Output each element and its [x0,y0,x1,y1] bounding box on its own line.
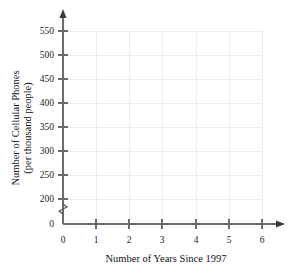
y-tick-label-350: 350 [40,122,55,132]
y-tick-label-450: 450 [40,74,55,84]
x-tick-label-1: 1 [94,235,99,245]
x-tick-label-6: 6 [260,235,265,245]
y-tick-label-250: 250 [40,170,55,180]
cartesian-plot: 550 500 450 400 350 300 250 200 0 0 1 2 … [0,0,293,269]
y-tick-label-300: 300 [40,146,55,156]
y-tick-label-0: 0 [49,219,54,229]
y-axis-title-line2: (per thousand people) [22,82,34,174]
x-axis-tick-labels: 0 1 2 3 4 5 6 [61,235,265,245]
x-tick-label-4: 4 [194,235,199,245]
x-tick-label-5: 5 [227,235,232,245]
y-axis [60,9,67,224]
y-tick-label-400: 400 [40,98,55,108]
chart-container: 550 500 450 400 350 300 250 200 0 0 1 2 … [0,0,293,269]
x-tick-label-0: 0 [61,235,66,245]
y-axis-title-line1: Number of Cellular Phones [10,70,21,185]
x-tick-label-3: 3 [160,235,165,245]
y-axis-title: Number of Cellular Phones (per thousand … [10,70,34,185]
x-axis-title: Number of Years Since 1997 [105,253,226,264]
x-tick-label-2: 2 [127,235,132,245]
y-tick-label-500: 500 [40,50,55,60]
y-tick-label-550: 550 [40,26,55,36]
y-axis-tick-labels: 550 500 450 400 350 300 250 200 0 [40,26,55,229]
y-tick-label-200: 200 [40,194,55,204]
